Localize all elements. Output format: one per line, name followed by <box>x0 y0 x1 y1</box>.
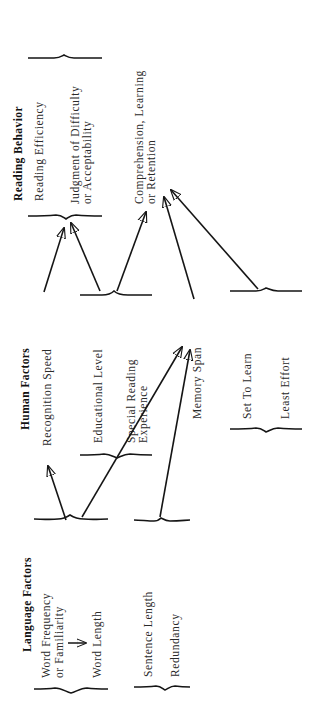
brace-behavior-group-bottom <box>28 215 102 219</box>
reading-factors-diagram: Language Factors Word Frequency or Famil… <box>0 0 324 709</box>
arrow-motivation-to-comprehension <box>171 190 258 289</box>
arrow-education-to-comprehension <box>117 212 146 291</box>
arrow-memory-to-comprehension <box>164 197 194 299</box>
arrow-sentence-to-memory-span <box>160 350 190 517</box>
brace-sentence-group-bottom <box>134 686 190 690</box>
arrow-word-to-recognition-speed <box>48 466 66 520</box>
brace-word-group-bottom <box>34 688 108 693</box>
brace-word-group-top <box>34 515 108 519</box>
brace-education-group-bottom <box>80 454 152 458</box>
arrow-word-to-memory-span <box>82 347 182 517</box>
brace-education-group-top <box>80 291 152 295</box>
brace-motivation-group-bottom <box>230 428 302 432</box>
brace-behavior-group-top <box>28 55 102 58</box>
brace-motivation-group-top <box>230 288 302 291</box>
diagram-connectors <box>0 0 324 709</box>
arrow-education-to-behavior <box>71 223 100 291</box>
arrow-recognition-to-behavior <box>44 228 64 292</box>
brace-sentence-group-top <box>134 518 190 521</box>
